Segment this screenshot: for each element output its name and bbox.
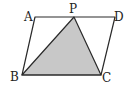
- label-d: D: [114, 10, 124, 24]
- label-c: C: [102, 71, 111, 85]
- label-a: A: [23, 10, 33, 24]
- label-b: B: [10, 70, 19, 84]
- label-p: P: [69, 2, 77, 16]
- parallelogram-diagram: A P D B C: [0, 0, 129, 87]
- shaded-triangle-pbc: [22, 17, 101, 75]
